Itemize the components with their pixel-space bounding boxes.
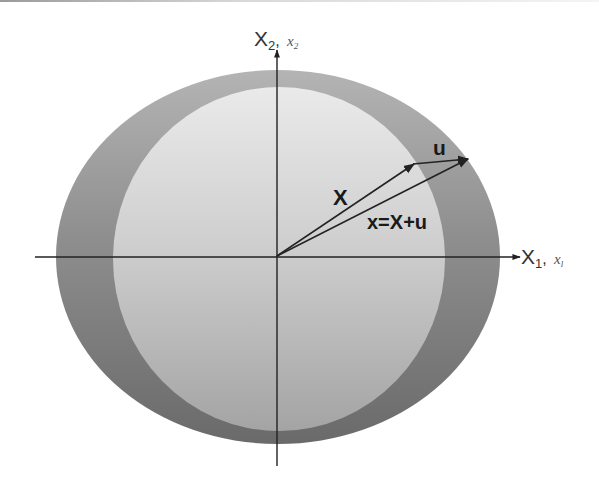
- configuration-diagram: X2, x2 X1, xl X u x=X+u: [0, 0, 599, 486]
- horizontal-axis-alt-label: xl: [553, 251, 564, 269]
- vertical-axis-alt-label: x2: [286, 33, 299, 51]
- vector-x-label: x=X+u: [367, 211, 427, 233]
- vector-X-label: X: [333, 185, 348, 210]
- inner-region-circle: [113, 87, 445, 431]
- horizontal-axis-label: X1,: [521, 245, 547, 271]
- vertical-axis-label: X2,: [254, 27, 280, 53]
- vector-u-label: u: [433, 136, 446, 159]
